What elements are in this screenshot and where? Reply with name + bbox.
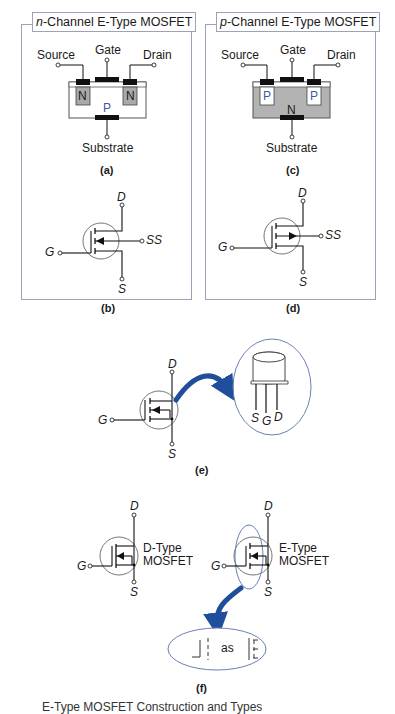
n-left-region-label: N (78, 89, 87, 103)
p-gate-label: Gate (280, 43, 306, 57)
n-channel-symbol (58, 203, 144, 281)
n-right-region-label: N (126, 89, 135, 103)
e-symbol (110, 370, 178, 446)
p-symbol-g-label: G (218, 240, 227, 254)
label-b: (b) (101, 302, 115, 314)
p-symbol-ss-label: SS (325, 228, 341, 242)
d-type-d-label: D (130, 499, 139, 513)
e-symbol-g-label: G (98, 413, 107, 427)
d-type-symbol (88, 513, 138, 584)
label-c: (c) (286, 164, 299, 176)
label-f: (f) (196, 682, 207, 694)
curved-arrow-e (176, 376, 228, 400)
d-type-label-line1: D-Type (143, 541, 182, 555)
label-a: (a) (100, 164, 113, 176)
n-source-label: Source (37, 48, 75, 62)
e-type-s-label: S (264, 585, 272, 599)
p-channel-structure (241, 58, 340, 139)
p-substrate-label: Substrate (266, 141, 317, 155)
e-type-label-line2: MOSFET (279, 554, 329, 568)
n-symbol-g-label: G (45, 245, 54, 259)
package-pin-d-label: D (274, 410, 283, 424)
e-type-g-label: G (211, 559, 220, 573)
p-drain-label: Drain (327, 48, 356, 62)
label-e: (e) (195, 464, 208, 476)
curved-arrow-f (217, 588, 241, 625)
e-type-label-line1: E-Type (279, 541, 317, 555)
figure-caption-partial: E-Type MOSFET Construction and Types (42, 700, 262, 714)
bubble-as-text: as (221, 641, 234, 655)
e-symbol-d-label: D (168, 357, 177, 371)
n-gate-label: Gate (95, 43, 121, 57)
to-package (233, 339, 311, 435)
n-symbol-s-label: S (118, 282, 126, 296)
d-type-s-label: S (130, 585, 138, 599)
n-drain-label: Drain (143, 48, 172, 62)
n-substrate-label: Substrate (82, 141, 133, 155)
e-symbol-s-label: S (168, 447, 176, 461)
p-body-region-label: N (287, 103, 296, 117)
p-right-region-label: P (310, 89, 318, 103)
p-source-label: Source (221, 48, 259, 62)
e-type-d-label: D (264, 499, 273, 513)
n-channel-structure (56, 58, 156, 139)
n-symbol-d-label: D (117, 190, 126, 204)
n-symbol-ss-label: SS (146, 233, 162, 247)
package-pin-s-label: S (251, 411, 259, 425)
caption-text: E-Type MOSFET Construction and Types (42, 700, 262, 714)
package-pin-g-label: G (262, 414, 271, 428)
n-body-region-label: P (103, 101, 111, 115)
e-type-symbol (222, 513, 272, 589)
d-type-g-label: G (77, 559, 86, 573)
p-channel-symbol (230, 199, 323, 274)
comparison-bubble (168, 628, 266, 670)
d-type-label-line2: MOSFET (143, 554, 193, 568)
label-d: (d) (286, 302, 300, 314)
p-symbol-d-label: D (298, 186, 307, 200)
p-symbol-s-label: S (299, 275, 307, 289)
p-left-region-label: P (263, 89, 271, 103)
